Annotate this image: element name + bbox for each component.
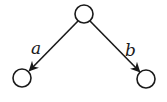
right-child-node (137, 70, 155, 88)
tree-diagram: a b (0, 0, 167, 102)
left-child-node (13, 69, 31, 87)
edge-b-label: b (125, 40, 136, 60)
edge-a-label: a (31, 38, 41, 58)
root-node (75, 5, 93, 23)
edge-a: a (30, 21, 78, 70)
edge-b: b (90, 21, 139, 71)
